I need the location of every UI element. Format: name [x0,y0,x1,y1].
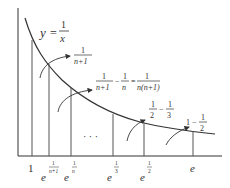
svg-text:1: 1 [145,72,149,81]
diagram-canvas: y = 1 x 1 n+1 1 n+1 − 1 n = 1 n(n+1) 1 2… [0,0,230,188]
svg-text:2: 2 [148,168,151,174]
svg-text:−: − [159,105,164,114]
curve-label: y = 1 x [38,19,69,44]
svg-text:e: e [107,171,112,183]
annotation-area-half-third: 1 2 − 1 3 [149,100,174,120]
svg-text:1: 1 [186,118,190,127]
tick-label-e-half: e 1 2 [140,160,152,183]
svg-text:n: n [72,168,75,174]
svg-text:1: 1 [123,72,127,81]
svg-text:1: 1 [102,72,106,81]
svg-text:e: e [41,171,46,183]
svg-text:n(n+1): n(n+1) [137,83,160,92]
tick-label-e: e [190,162,195,174]
svg-text:2: 2 [200,124,204,133]
svg-text:1: 1 [81,46,85,55]
ellipsis: · · · [83,131,98,142]
tick-label-e-inv-n: e 1 n [64,160,77,183]
svg-text:−: − [192,118,197,127]
svg-text:1: 1 [61,19,66,30]
svg-text:1: 1 [201,113,205,122]
svg-text:−: − [115,77,120,86]
svg-text:1: 1 [148,160,151,166]
tick-label-1: 1 [28,162,34,174]
svg-text:=: = [131,77,136,86]
svg-text:y: y [38,25,46,40]
svg-text:1: 1 [168,100,172,109]
svg-text:n+1: n+1 [96,83,109,92]
svg-text:1: 1 [151,100,155,109]
annotation-area-diff: 1 n+1 − 1 n = 1 n(n+1) [96,72,160,92]
svg-text:1: 1 [73,160,76,166]
svg-text:=: = [50,26,57,40]
tick-label-e-third: e 1 3 [107,160,119,183]
svg-text:1: 1 [52,160,55,166]
svg-text:n+1: n+1 [49,168,58,174]
svg-text:n: n [122,83,126,92]
svg-text:x: x [59,32,65,44]
tick-label-e-inv-n1: e 1 n+1 [41,160,59,183]
svg-text:e: e [140,171,145,183]
svg-text:3: 3 [115,168,118,174]
svg-text:2: 2 [150,111,154,120]
svg-text:n+1: n+1 [74,57,87,66]
svg-text:e: e [64,171,69,183]
arrow-diff [58,90,92,112]
svg-text:1: 1 [115,160,118,166]
annotation-area-first: 1 n+1 [74,46,92,66]
svg-text:3: 3 [167,111,171,120]
annotation-area-one-half: 1 − 1 2 [186,113,207,133]
